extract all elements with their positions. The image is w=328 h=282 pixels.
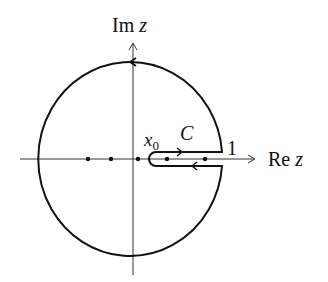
contour-label: C: [180, 122, 194, 144]
pole-dot: [203, 157, 207, 161]
unit-mark-label: 1: [227, 137, 237, 159]
pole-dot: [165, 157, 169, 161]
pole-dot: [109, 157, 113, 161]
pole-dot: [136, 157, 140, 161]
x0-label: x0: [143, 129, 159, 153]
im-axis-label: Im z: [112, 14, 147, 36]
pole-dot: [86, 157, 90, 161]
contour-diagram: Im z Re z x0 C 1: [0, 0, 328, 282]
re-axis-label: Re z: [268, 148, 303, 170]
